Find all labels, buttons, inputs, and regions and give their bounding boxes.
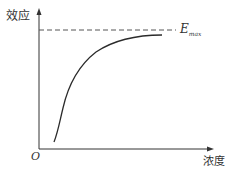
x-axis-arrow-icon	[207, 147, 214, 152]
emax-subscript: max	[189, 30, 202, 37]
response-curve	[54, 35, 162, 142]
origin-label: O	[31, 150, 40, 163]
x-axis-label: 浓度	[203, 152, 225, 168]
y-axis-arrow-icon	[37, 8, 42, 15]
dose-response-diagram	[0, 0, 237, 175]
y-axis-label: 效应	[6, 6, 30, 23]
emax-label: Emax	[180, 22, 201, 37]
emax-main: E	[180, 22, 189, 36]
